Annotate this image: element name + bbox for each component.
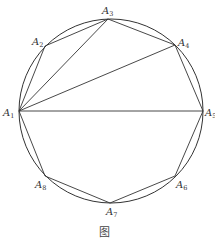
edge-A5-A6	[175, 111, 203, 176]
diagonal-A1-A4	[19, 45, 175, 111]
vertex-label-a8: A8	[34, 179, 46, 192]
edge-A7-A8	[45, 176, 110, 203]
vertex-label-a4: A4	[177, 37, 189, 50]
edge-A8-A1	[19, 111, 45, 176]
vertex-label-a1: A1	[2, 107, 14, 120]
edge-A4-A5	[175, 45, 203, 111]
diagonal-A1-A3	[19, 19, 108, 111]
vertex-label-a3: A3	[101, 5, 113, 18]
edge-A2-A3	[45, 19, 108, 46]
figure-caption: 图	[99, 226, 110, 238]
edge-A3-A4	[108, 19, 175, 45]
diagonals	[19, 19, 203, 111]
vertex-labels: A1A2A3A4A5A6A7A8	[2, 5, 215, 219]
vertex-label-a2: A2	[31, 36, 43, 49]
edge-A6-A7	[110, 176, 175, 203]
vertex-label-a6: A6	[175, 179, 187, 192]
vertex-label-a5: A5	[204, 107, 215, 120]
octagon-inscribed-circle-diagram: A1A2A3A4A5A6A7A8 图	[0, 0, 215, 238]
vertex-label-a7: A7	[105, 206, 117, 219]
